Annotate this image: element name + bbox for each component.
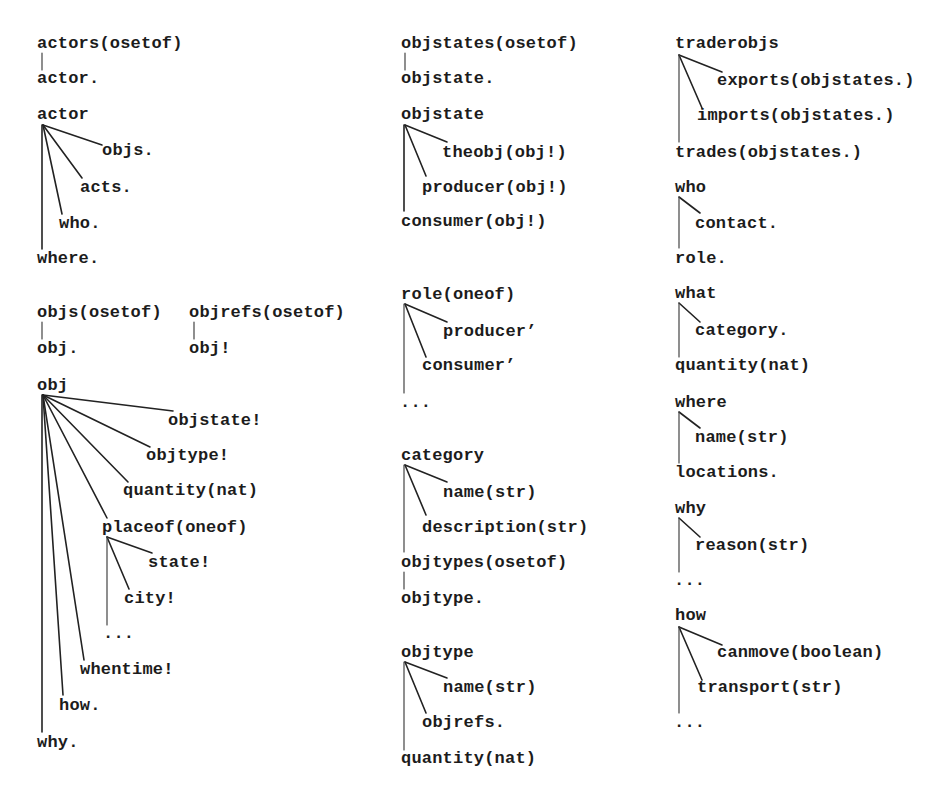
node-theobj: theobj(obj!) <box>442 143 567 162</box>
node-what-root: what <box>675 284 717 303</box>
node-traderobjs-root: traderobjs <box>675 34 779 53</box>
node-reason: reason(str) <box>695 536 809 555</box>
node-obj-ref: obj. <box>37 339 79 358</box>
schema-tree-diagram: actors(osetof) actor. actor objs. acts. … <box>0 0 943 799</box>
connector-line <box>43 125 102 145</box>
node-role-root: role(oneof) <box>401 285 515 304</box>
node-locations: locations. <box>675 463 779 482</box>
node-ellipsis: ... <box>103 624 134 643</box>
connector-line <box>679 303 700 322</box>
node-where: where. <box>37 249 99 268</box>
node-objs: objs. <box>102 141 154 160</box>
node-imports: imports(objstates.) <box>697 106 895 125</box>
node-objtypes-root: objtypes(osetof) <box>401 553 567 572</box>
tree-objs: objs(osetof) obj. <box>37 303 162 358</box>
tree-traderobjs: traderobjs exports(objstates.) imports(o… <box>675 34 915 162</box>
node-objrefs: objrefs. <box>422 713 505 732</box>
node-name: name(str) <box>443 483 537 502</box>
node-who: who. <box>59 214 101 233</box>
connector-line <box>43 395 63 695</box>
node-quantity: quantity(nat) <box>401 749 536 768</box>
node-producer-value: producer’ <box>443 322 537 341</box>
tree-who: who contact. role. <box>675 178 778 268</box>
node-trades: trades(objstates.) <box>675 143 862 162</box>
node-producer: producer(obj!) <box>422 178 568 197</box>
tree-where: where name(str) locations. <box>675 393 789 482</box>
node-acts: acts. <box>80 178 132 197</box>
tree-objstates: objstates(osetof) objstate. <box>401 34 578 88</box>
tree-what: what category. quantity(nat) <box>675 284 810 375</box>
node-actors-root: actors(osetof) <box>37 34 183 53</box>
connector-line <box>679 412 700 428</box>
tree-placeof: state! city! ... <box>103 537 210 643</box>
tree-actors: actors(osetof) actor. <box>37 34 183 88</box>
node-name: name(str) <box>443 678 537 697</box>
connector-line <box>43 395 173 411</box>
node-category-root: category <box>401 446 484 465</box>
node-actor-root: actor <box>37 105 89 124</box>
tree-objtypes: objtype. <box>401 572 484 608</box>
tree-how: how canmove(boolean) transport(str) ... <box>674 606 883 732</box>
node-obj-pointer: obj! <box>189 339 231 358</box>
node-why-root: why <box>675 499 706 518</box>
node-objtype-ref: objtype. <box>401 589 484 608</box>
node-consumer-value: consumer’ <box>422 356 516 375</box>
node-placeof: placeof(oneof) <box>102 518 248 537</box>
node-quantity: quantity(nat) <box>675 356 810 375</box>
node-objstate-root: objstate <box>401 105 484 124</box>
node-actor-ref: actor. <box>37 69 99 88</box>
node-canmove: canmove(boolean) <box>717 643 883 662</box>
node-quantity: quantity(nat) <box>123 481 258 500</box>
node-ellipsis: ... <box>674 571 705 590</box>
node-objrefs-root: objrefs(osetof) <box>189 303 345 322</box>
node-transport: transport(str) <box>697 678 843 697</box>
node-whentime: whentime! <box>80 660 174 679</box>
tree-objstate: objstate theobj(obj!) producer(obj!) con… <box>401 105 568 231</box>
node-role: role. <box>675 249 727 268</box>
tree-objrefs: objrefs(osetof) obj! <box>189 303 345 358</box>
node-obj-root: obj <box>37 376 68 395</box>
node-name: name(str) <box>695 428 789 447</box>
node-contact: contact. <box>695 214 778 233</box>
node-description: description(str) <box>422 518 588 537</box>
node-city: city! <box>124 589 176 608</box>
tree-objtype: objtype name(str) objrefs. quantity(nat) <box>401 643 537 768</box>
node-objstate-pointer: objstate! <box>168 411 262 430</box>
tree-why: why reason(str) ... <box>674 499 809 590</box>
tree-category: category name(str) description(str) objt… <box>401 446 588 572</box>
node-ellipsis: ... <box>400 393 431 412</box>
node-how: how. <box>59 696 101 715</box>
node-state: state! <box>148 553 210 572</box>
connector-line <box>679 197 700 213</box>
tree-actor: actor objs. acts. who. where. <box>37 105 154 268</box>
connector-line <box>107 537 152 553</box>
node-how-root: how <box>675 606 707 625</box>
node-who-root: who <box>675 178 706 197</box>
node-exports: exports(objstates.) <box>717 71 915 90</box>
node-why: why. <box>37 733 79 752</box>
node-where-root: where <box>675 393 727 412</box>
tree-role: role(oneof) producer’ consumer’ ... <box>400 285 537 412</box>
node-consumer: consumer(obj!) <box>401 212 547 231</box>
node-objtype-root: objtype <box>401 643 474 662</box>
node-objs-root: objs(osetof) <box>37 303 162 322</box>
node-objstates-root: objstates(osetof) <box>401 34 578 53</box>
connector-line <box>43 395 128 482</box>
node-ellipsis: ... <box>674 713 705 732</box>
connector-line <box>107 537 129 589</box>
node-category: category. <box>695 321 789 340</box>
connector-line <box>43 395 150 447</box>
node-objstate-ref: objstate. <box>401 69 495 88</box>
connector-line <box>679 518 700 537</box>
node-objtype-pointer: objtype! <box>146 446 229 465</box>
